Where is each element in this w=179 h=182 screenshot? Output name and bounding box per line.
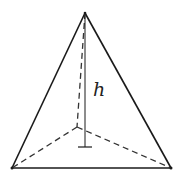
- diagram-svg: h: [0, 0, 179, 182]
- tetrahedron-diagram: h: [0, 0, 179, 182]
- vertex-base-left: [11, 167, 14, 170]
- vertex-apex: [84, 12, 87, 15]
- height-label: h: [93, 78, 105, 100]
- hidden-edge-apex-back: [77, 13, 85, 127]
- vertex-base-right: [170, 167, 173, 170]
